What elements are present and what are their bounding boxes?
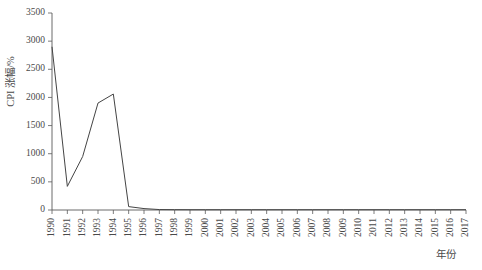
x-axis-tick-label: 1991 — [62, 218, 72, 237]
x-axis-tick-label: 2006 — [292, 218, 302, 237]
y-axis-tick-label: 0 — [40, 204, 45, 214]
x-axis-tick-label: 1998 — [169, 218, 179, 237]
x-axis-tick-label: 2000 — [200, 218, 210, 237]
x-axis-title: 年份 — [436, 248, 457, 260]
x-axis-tick-label: 2004 — [261, 218, 271, 237]
x-axis-tick-label: 2010 — [353, 218, 363, 237]
x-axis-tick-label: 2007 — [307, 218, 317, 237]
data-series-line — [52, 47, 466, 210]
x-axis-tick-label: 2017 — [460, 218, 470, 237]
x-axis-tick-label: 2014 — [414, 218, 424, 237]
x-axis-tick-group: 1990199119921993199419951996199719981999… — [46, 210, 470, 237]
x-axis-tick-label: 2009 — [338, 218, 348, 237]
x-axis-tick-label: 2008 — [322, 218, 332, 237]
x-axis-tick-label: 2015 — [430, 218, 440, 237]
x-axis-tick-label: 1996 — [138, 218, 148, 237]
x-axis-tick-label: 2016 — [445, 218, 455, 237]
x-axis-tick-label: 1995 — [123, 218, 133, 237]
x-axis-tick-label: 2003 — [246, 218, 256, 237]
x-axis-tick-label: 1999 — [184, 218, 194, 237]
y-axis-tick-label: 1500 — [26, 120, 45, 130]
x-axis-tick-label: 1993 — [92, 218, 102, 237]
y-axis-tick-label: 3000 — [26, 35, 45, 45]
y-axis-tick-group: 0500100015002000250030003500 — [26, 7, 52, 214]
x-axis-tick-label: 2002 — [230, 218, 240, 237]
x-axis-tick-label: 1990 — [46, 218, 56, 237]
y-axis-tick-label: 2500 — [26, 63, 45, 73]
y-axis-title: CPI 涨幅/% — [4, 56, 16, 107]
y-axis-tick-label: 2000 — [26, 92, 45, 102]
y-axis-tick-label: 1000 — [26, 148, 45, 158]
y-axis-tick-label: 3500 — [26, 7, 45, 17]
line-chart: 0500100015002000250030003500 19901991199… — [0, 0, 482, 270]
x-axis-tick-label: 1992 — [77, 218, 87, 237]
x-axis-tick-label: 2013 — [399, 218, 409, 237]
x-axis-tick-label: 2011 — [368, 218, 378, 237]
x-axis-tick-label: 2005 — [276, 218, 286, 237]
chart-container: 0500100015002000250030003500 19901991199… — [0, 0, 482, 270]
x-axis-tick-label: 1994 — [108, 218, 118, 237]
x-axis-tick-label: 2012 — [384, 218, 394, 237]
y-axis-tick-label: 500 — [31, 176, 46, 186]
x-axis-tick-label: 1997 — [154, 218, 164, 237]
x-axis-tick-label: 2001 — [215, 218, 225, 237]
